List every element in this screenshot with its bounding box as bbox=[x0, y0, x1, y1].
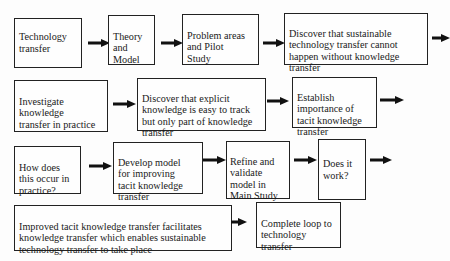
right-arrow-icon bbox=[432, 34, 450, 42]
step-label: Improved tacit knowledge transfer facili… bbox=[19, 221, 206, 255]
right-arrow-icon bbox=[89, 162, 112, 170]
flow-step-discover-sustainable: Discover that sustainable technology tra… bbox=[284, 13, 428, 65]
flow-step-technology-transfer: Technology transfer bbox=[14, 18, 82, 68]
right-arrow-icon bbox=[267, 97, 289, 105]
right-arrow-icon bbox=[294, 156, 317, 164]
step-label: Develop model for improving tacit knowle… bbox=[118, 157, 183, 203]
step-label: Discover that explicit knowledge is easy… bbox=[142, 93, 252, 139]
step-label: Theory and Model bbox=[113, 31, 142, 65]
right-arrow-icon bbox=[113, 100, 136, 108]
right-arrow-icon bbox=[370, 156, 392, 164]
right-arrow-icon bbox=[231, 218, 247, 226]
right-arrow-icon bbox=[161, 39, 183, 47]
step-label: Discover that sustainable technology tra… bbox=[289, 28, 399, 74]
step-label: Technology transfer bbox=[19, 31, 67, 54]
right-arrow-icon bbox=[380, 96, 404, 104]
diagram-canvas: { "diagram": { "type": "flowchart", "row… bbox=[0, 0, 450, 261]
step-label: Complete loop to technology transfer bbox=[261, 218, 332, 252]
flow-step-develop-model: Develop model for improving tacit knowle… bbox=[113, 142, 203, 194]
flow-step-complete-loop: Complete loop to technology transfer bbox=[256, 202, 341, 248]
step-label: Establish importance of tacit knowledge … bbox=[297, 92, 362, 138]
step-label: Refine and validate model in Main Study bbox=[230, 156, 278, 202]
right-arrow-icon bbox=[263, 39, 285, 47]
step-label: Problem areas and Pilot Study bbox=[187, 30, 245, 64]
flow-step-improved-tacit: Improved tacit knowledge transfer facili… bbox=[14, 205, 232, 251]
right-arrow-icon bbox=[203, 156, 226, 164]
step-label: Investigate knowledge transfer in practi… bbox=[19, 96, 95, 130]
flow-step-how-does-this-occur: How does this occur in practice? bbox=[14, 146, 81, 194]
flow-step-theory-and-model: Theory and Model bbox=[108, 15, 155, 65]
flow-step-establish-importance: Establish importance of tacit knowledge … bbox=[292, 77, 377, 128]
flow-step-discover-explicit: Discover that explicit knowledge is easy… bbox=[137, 78, 266, 131]
flow-step-does-it-work: Does it work? bbox=[318, 139, 366, 200]
step-label: How does this occur in practice? bbox=[19, 162, 69, 196]
flow-step-investigate-knowledge-transfer: Investigate knowledge transfer in practi… bbox=[14, 80, 108, 132]
step-label: Does it work? bbox=[323, 158, 352, 181]
flow-step-refine-validate: Refine and validate model in Main Study bbox=[226, 141, 290, 199]
flow-step-problem-areas-pilot-study: Problem areas and Pilot Study bbox=[182, 14, 259, 65]
right-arrow-icon bbox=[88, 39, 110, 47]
